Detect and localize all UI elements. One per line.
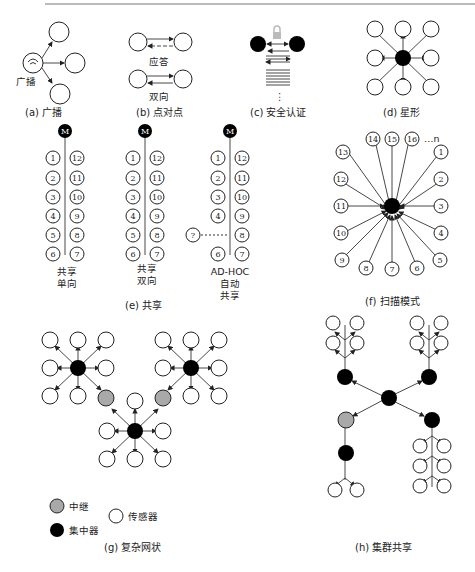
ack-label: 应答 <box>149 56 169 67</box>
svg-text:9: 9 <box>154 212 159 221</box>
svg-text:9: 9 <box>239 212 244 221</box>
legend-sensor-label: 传感器 <box>128 511 158 522</box>
panel-b-point-to-point: 应答 双向 (b) 点对点 <box>129 33 192 118</box>
svg-text:4: 4 <box>215 212 220 221</box>
svg-text:1: 1 <box>215 154 220 163</box>
svg-text:6: 6 <box>414 264 419 273</box>
svg-text:16: 16 <box>407 135 417 144</box>
panel-c-security: ⋮ (c) 安全认证 <box>250 26 306 118</box>
legend-sensor-swatch <box>109 509 123 523</box>
relay-node <box>98 390 114 406</box>
svg-text:3: 3 <box>438 202 443 211</box>
ellipsis: ⋮ <box>275 91 285 102</box>
lock-icon <box>273 32 281 39</box>
svg-text:11: 11 <box>72 174 82 183</box>
svg-text:5: 5 <box>50 231 55 240</box>
svg-text:4: 4 <box>130 212 135 221</box>
svg-text:8: 8 <box>74 231 79 240</box>
legend-relay-label: 中继 <box>69 501 89 512</box>
svg-text:6: 6 <box>130 250 135 259</box>
svg-text:5: 5 <box>130 231 135 240</box>
svg-text:2: 2 <box>215 174 220 183</box>
svg-text:9: 9 <box>74 212 79 221</box>
panel-d-star: (d) 星形 <box>367 21 439 118</box>
svg-text:7: 7 <box>154 250 159 259</box>
panel-e-shared: M M M 1 12 2 11 3 10 4 9 5 8 6 7 <box>46 124 250 311</box>
caption-g: (g) 复杂网状 <box>104 541 161 553</box>
svg-text:6: 6 <box>215 250 220 259</box>
svg-text:2: 2 <box>50 174 55 183</box>
svg-text:单向: 单向 <box>57 278 77 289</box>
svg-text:1: 1 <box>50 154 55 163</box>
svg-text:3: 3 <box>215 193 220 202</box>
panel-a-broadcast: 广播 (a) 广播 <box>16 22 85 118</box>
svg-text:13: 13 <box>338 148 348 157</box>
svg-text:12: 12 <box>152 154 162 163</box>
caption-a: (a) 广播 <box>25 106 62 118</box>
caption-d: (d) 星形 <box>383 107 420 118</box>
panel-g-mesh: 中继 集中器 传感器 (g) 复杂网状 <box>42 332 227 553</box>
svg-text:5: 5 <box>437 256 442 265</box>
legend-relay-swatch <box>50 499 64 513</box>
svg-text:7: 7 <box>74 250 79 259</box>
svg-text:10: 10 <box>336 229 346 238</box>
svg-text:1: 1 <box>438 148 443 157</box>
legend-hub-label: 集中器 <box>69 525 99 536</box>
caption-c: (c) 安全认证 <box>250 106 306 118</box>
svg-text:8: 8 <box>363 264 368 273</box>
network-topology-figure: 广播 (a) 广播 应答 双向 (b) 点对点 <box>0 0 475 572</box>
svg-text:M: M <box>226 127 234 136</box>
svg-text:11: 11 <box>237 174 247 183</box>
svg-text:3: 3 <box>50 193 55 202</box>
svg-text:双向: 双向 <box>137 275 157 286</box>
panel-h-cluster: (h) 集群共享 <box>326 316 451 553</box>
svg-text:8: 8 <box>154 231 159 240</box>
svg-text:15: 15 <box>387 135 397 144</box>
svg-text:8: 8 <box>239 231 244 240</box>
svg-text:2: 2 <box>438 175 443 184</box>
legend-hub-swatch <box>50 523 64 537</box>
svg-text:M: M <box>141 127 149 136</box>
svg-text:9: 9 <box>339 256 344 265</box>
svg-text:AD-HOC: AD-HOC <box>211 266 250 277</box>
svg-text:自动: 自动 <box>220 278 240 289</box>
svg-text:共享: 共享 <box>57 266 77 277</box>
svg-text:6: 6 <box>50 250 55 259</box>
relay-node <box>155 390 171 406</box>
svg-text:7: 7 <box>389 265 394 274</box>
caption-h: (h) 集群共享 <box>355 541 412 553</box>
caption-e: (e) 共享 <box>125 299 162 311</box>
svg-text:1: 1 <box>130 154 135 163</box>
svg-text:共享: 共享 <box>220 290 240 301</box>
caption-b: (b) 点对点 <box>136 106 183 118</box>
relay-node <box>338 412 354 428</box>
legend: 中继 集中器 传感器 <box>50 499 158 537</box>
svg-text:7: 7 <box>239 250 244 259</box>
broadcast-label: 广播 <box>16 76 36 87</box>
svg-text:11: 11 <box>152 174 162 183</box>
bidirectional-label: 双向 <box>149 91 169 102</box>
svg-text:10: 10 <box>152 193 162 202</box>
svg-text:4: 4 <box>50 212 55 221</box>
svg-text:12: 12 <box>237 154 247 163</box>
svg-text:M: M <box>61 127 69 136</box>
svg-text:11: 11 <box>336 202 346 211</box>
svg-text:12: 12 <box>336 175 346 184</box>
unknown-node: ? <box>191 231 195 240</box>
svg-text:10: 10 <box>72 193 82 202</box>
svg-text:2: 2 <box>130 174 135 183</box>
ellipsis-n: …n <box>424 133 440 144</box>
svg-text:4: 4 <box>438 229 443 238</box>
panel-f-scan: 14 15 16 …n 13 1 12 2 11 3 10 4 9 5 8 7 … <box>334 132 448 307</box>
svg-text:12: 12 <box>72 154 82 163</box>
svg-text:共享: 共享 <box>137 263 157 274</box>
svg-text:14: 14 <box>368 135 378 144</box>
svg-text:10: 10 <box>237 193 247 202</box>
svg-text:3: 3 <box>130 193 135 202</box>
caption-f: (f) 扫描模式 <box>365 295 420 307</box>
